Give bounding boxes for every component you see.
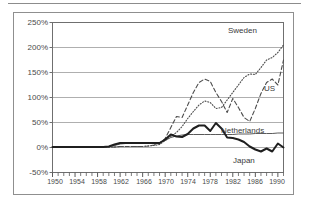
y-tick-label: 50% — [18, 119, 48, 127]
chart-figure: 250% 200% 150% 100% 50% 0% -50% 1950 195… — [0, 0, 309, 207]
y-tick-label: 0% — [18, 144, 48, 152]
y-tick-label: 100% — [18, 94, 48, 102]
y-tick-label: 150% — [18, 69, 48, 77]
y-tick-label: 250% — [18, 19, 48, 27]
y-tick-label: -50% — [18, 169, 48, 177]
y-tick-label: 200% — [18, 44, 48, 52]
series-label-netherlands: Netherlands — [221, 127, 264, 135]
series-label-sweden: Sweden — [228, 27, 257, 35]
x-tick-label: 1990 — [264, 178, 290, 185]
series-label-us: US — [264, 85, 275, 93]
series-label-japan: Japan — [233, 157, 255, 165]
